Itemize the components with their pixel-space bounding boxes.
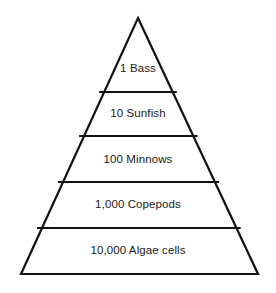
energy-pyramid-figure: 1 Bass 10 Sunfish 100 Minnows 1,000 Cope… [0,0,276,293]
pyramid-outline-svg [0,0,276,293]
